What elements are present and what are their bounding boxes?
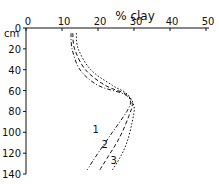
curve-label-3: 3 (111, 155, 117, 166)
x-tick-label: 20 (94, 16, 107, 27)
y-tick-label: 140 (2, 169, 21, 180)
y-tick-label: 120 (2, 148, 21, 159)
y-tick-label: 80 (8, 106, 21, 117)
clay-depth-chart: % clay cm 01020304050020406080100120140 … (0, 0, 219, 184)
x-tick-label: 30 (130, 16, 143, 27)
x-tick-label: 10 (58, 16, 71, 27)
curve-label-2: 2 (102, 139, 108, 150)
axes: 01020304050020406080100120140 (2, 16, 214, 180)
x-tick-label: 50 (202, 16, 215, 27)
y-tick-label: 0 (15, 23, 21, 34)
curve-label-1: 1 (93, 124, 99, 135)
y-tick-label: 20 (8, 44, 21, 55)
y-tick-label: 100 (2, 127, 21, 138)
y-tick-label: 60 (8, 86, 21, 97)
x-tick-label: 0 (25, 16, 31, 27)
curve-labels: 123 (93, 124, 117, 165)
y-tick-label: 40 (8, 65, 21, 76)
x-tick-label: 40 (166, 16, 179, 27)
